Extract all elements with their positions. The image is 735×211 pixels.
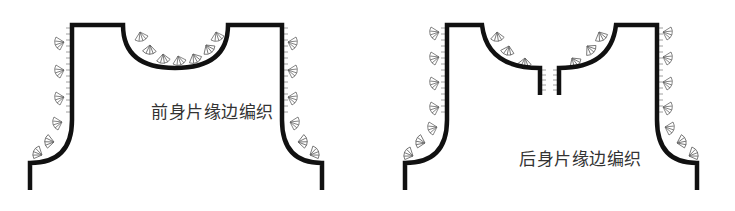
back-piece-outline [375,0,735,211]
back-piece-diagram: 后身片缘边编织 [375,0,735,211]
front-piece-label: 前身片缘边编织 [151,98,274,123]
stitch-ticks [441,28,663,112]
fan-shell-icon [288,37,322,161]
front-piece-diagram: 前身片缘边编织 [0,0,360,211]
back-piece-label: 后身片缘边编织 [519,145,642,170]
fan-shell-icon [401,27,439,162]
fan-shell-icon [663,27,701,162]
fan-shell-icon [30,37,64,161]
